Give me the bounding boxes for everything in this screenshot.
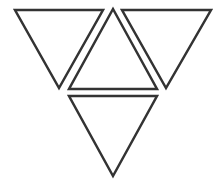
triangle-bottom xyxy=(69,96,157,176)
triangle-diagram xyxy=(0,0,219,187)
